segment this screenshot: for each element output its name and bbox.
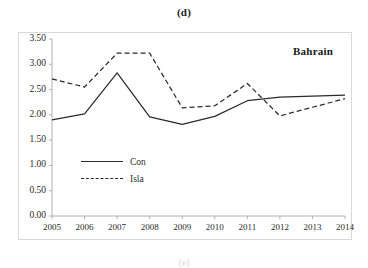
y-axis-tick-label: 1.00 xyxy=(19,159,46,169)
y-axis-tick-label: 2.00 xyxy=(19,109,46,119)
y-axis-tick-label: 0.00 xyxy=(19,210,46,220)
legend-item-con: Con xyxy=(81,153,146,170)
x-axis-tick-label: 2014 xyxy=(325,222,365,232)
legend-label: Isla xyxy=(130,174,144,184)
y-axis-tick-label: 3.50 xyxy=(19,33,46,43)
page-title: (d) xyxy=(0,6,368,18)
series-line-con xyxy=(52,73,345,125)
y-axis-tick-label: 0.50 xyxy=(19,185,46,195)
y-axis-tick-label: 1.50 xyxy=(19,134,46,144)
chart-legend: ConIsla xyxy=(81,153,146,187)
legend-line-swatch-solid xyxy=(81,161,123,162)
line-chart-plot xyxy=(19,33,351,239)
legend-line-swatch-dashed xyxy=(81,178,123,179)
series-line-isla xyxy=(52,53,345,116)
legend-label: Con xyxy=(130,157,146,167)
legend-item-isla: Isla xyxy=(81,170,146,187)
y-axis-tick-label: 2.50 xyxy=(19,84,46,94)
chart-frame: Bahrain 0.000.501.001.502.002.503.003.50… xyxy=(18,32,352,240)
footer-panel-label: (e) xyxy=(0,257,368,268)
y-axis-tick-label: 3.00 xyxy=(19,58,46,68)
